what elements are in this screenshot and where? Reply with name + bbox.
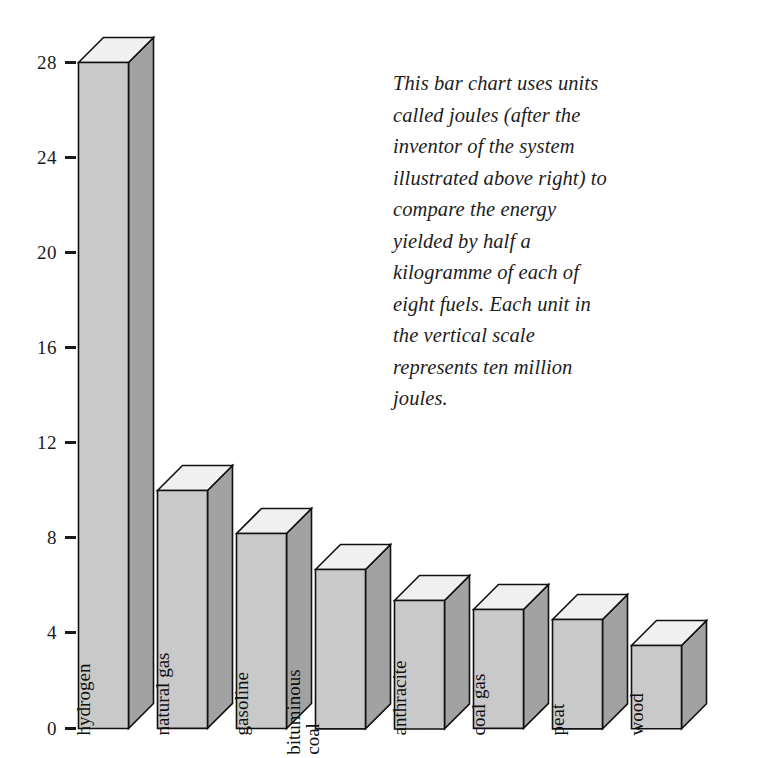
bar-wood xyxy=(631,620,708,730)
bar-hydrogen xyxy=(78,37,155,730)
bar-coal-gas xyxy=(473,584,550,730)
bar-gasoline xyxy=(236,508,313,730)
caption-line: the vertical scale xyxy=(393,320,743,352)
caption-line: inventor of the system xyxy=(393,131,743,163)
caption-line: yielded by half a xyxy=(393,226,743,258)
caption-line: joules. xyxy=(393,383,743,415)
caption-line: eight fuels. Each unit in xyxy=(393,289,743,321)
bar-peat xyxy=(552,594,629,730)
bar-natural-gas xyxy=(157,465,234,730)
bar-bituminous-coal xyxy=(315,544,392,730)
bar-chart-figure: 0481216202428 hydrogennatural gasgasolin… xyxy=(0,0,768,758)
caption-line: called joules (after the xyxy=(393,100,743,132)
caption-line: illustrated above right) to xyxy=(393,163,743,195)
bar-anthracite xyxy=(394,575,471,730)
caption-line: compare the energy xyxy=(393,194,743,226)
caption-line: kilogramme of each of xyxy=(393,257,743,289)
caption-line: represents ten million xyxy=(393,352,743,384)
caption-line: This bar chart uses units xyxy=(393,68,743,100)
chart-caption: This bar chart uses unitscalled joules (… xyxy=(393,68,743,415)
